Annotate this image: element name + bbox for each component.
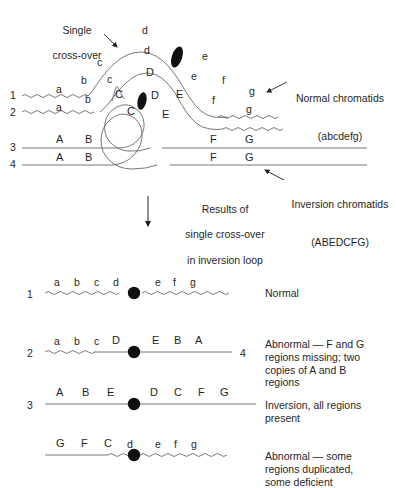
strand-number-2: 2 (10, 106, 16, 119)
result-1-label-f: f (173, 276, 176, 289)
region-label-2-g: g (246, 103, 252, 116)
region-label-3-E: E (176, 88, 183, 101)
region-label-4-F: F (210, 151, 217, 164)
result-1-right-wavy (142, 292, 229, 295)
region-label-1-b: b (81, 74, 87, 87)
region-label-4-B: B (85, 151, 92, 164)
result-1-centromere (128, 287, 140, 299)
region-label-4-C: C (127, 105, 135, 118)
result-strand-4 (45, 449, 227, 461)
result-4-label-d: d (127, 438, 133, 451)
result-3-label-G: G (220, 386, 229, 399)
strand-number-1: 1 (10, 89, 16, 102)
region-label-3-G: G (245, 133, 254, 146)
region-label-3-F: F (210, 133, 217, 146)
region-label-3-A: A (56, 133, 63, 146)
results-caption-line1: Results of (160, 203, 290, 216)
region-label-1-g: g (249, 85, 255, 98)
region-label-3-C: C (115, 88, 123, 101)
region-label-4-D: D (151, 89, 159, 102)
region-label-1-f: f (222, 74, 225, 87)
result-3-centromere (128, 398, 140, 410)
result-2-centromere (128, 346, 140, 358)
region-label-1-d: d (142, 24, 148, 37)
result-4-label-C: C (104, 437, 112, 450)
region-label-4-A: A (56, 151, 63, 164)
single-crossover-line2: cross-over (37, 49, 117, 62)
result-1-label-d: d (113, 276, 119, 289)
result-2-number-right: 4 (240, 347, 246, 360)
result-4-label-G: G (56, 437, 65, 450)
result-3-label-E: E (107, 386, 114, 399)
result-strand-1 (45, 287, 229, 299)
result-2-label-E: E (152, 334, 159, 347)
strand-number-3: 3 (10, 141, 16, 154)
result-2-label-A: A (195, 334, 202, 347)
result-3-label-C: C (174, 386, 182, 399)
inversion-chromatids-line2: (ABEDCFG) (286, 236, 394, 249)
result-4-label-e: e (155, 438, 161, 451)
inversion-chromatids-label: Inversion chromatids (ABEDCFG) (286, 172, 394, 274)
normal-chromatids-leader (267, 82, 287, 92)
result-1-label-a: a (54, 276, 60, 289)
result-2-number: 2 (27, 347, 33, 360)
result-3-label-B: B (82, 386, 89, 399)
region-label-4-G: G (245, 151, 254, 164)
normal-chromatids-line2: (abcdefg) (286, 130, 394, 143)
centromere-lower (136, 91, 148, 110)
result-1-number: 1 (27, 288, 33, 301)
single-crossover-label: Single cross-over (37, 11, 117, 75)
result-1-description: Normal (265, 287, 393, 300)
result-3-label-F: F (198, 386, 205, 399)
region-label-3-D: D (146, 66, 154, 79)
result-2-label-c: c (94, 335, 99, 348)
region-label-4-E: E (162, 108, 169, 121)
region-label-1-e: e (202, 50, 208, 63)
result-3-label-D: D (150, 386, 158, 399)
result-2-label-D: D (112, 334, 120, 347)
region-label-1-c: c (97, 56, 102, 69)
result-1-label-e: e (155, 276, 161, 289)
single-crossover-line1: Single (37, 24, 117, 37)
region-label-2-b: b (85, 93, 91, 106)
centromere-upper (169, 45, 186, 69)
result-2-label-b: b (74, 335, 80, 348)
result-2-label-a: a (54, 335, 60, 348)
result-2-left-wavy (45, 351, 95, 354)
region-label-2-c: c (107, 73, 112, 86)
normal-chromatids-line1: Normal chromatids (286, 92, 394, 105)
inversion-chromatids-line1: Inversion chromatids (286, 198, 394, 211)
result-4-description: Abnormal — some regions duplicated, some… (265, 450, 395, 488)
result-3-description: Inversion, all regions present (265, 399, 395, 425)
region-label-2-d: d (144, 44, 150, 57)
normal-chromatids-label: Normal chromatids (abcdefg) (286, 66, 394, 168)
result-1-label-b: b (74, 276, 80, 289)
result-1-label-c: c (94, 276, 99, 289)
region-label-3-B: B (85, 133, 92, 146)
region-label-2-f: f (212, 94, 215, 107)
results-caption-line3: in inversion loop (160, 254, 290, 267)
result-3-number: 3 (27, 399, 33, 412)
strand-number-4: 4 (10, 158, 16, 171)
chromatid-2-right-wavy (223, 128, 283, 131)
result-3-label-A: A (56, 386, 63, 399)
result-2-description: Abnormal — F and G regions missing; two … (265, 338, 395, 389)
result-1-label-g: g (190, 276, 196, 289)
region-label-1-a: a (56, 83, 62, 96)
result-4-label-f: f (174, 438, 177, 451)
results-caption-line2: single cross-over (160, 228, 290, 241)
region-label-2-a: a (56, 101, 62, 114)
results-caption: Results of single cross-over in inversio… (160, 190, 290, 280)
result-1-left-wavy (45, 292, 119, 295)
result-4-label-g: g (191, 438, 197, 451)
region-label-2-e: e (191, 70, 197, 83)
result-4-right-wavy (140, 454, 227, 457)
result-strand-3 (45, 398, 256, 410)
chromatid-1-left-wavy (22, 95, 88, 98)
result-4-label-F: F (81, 437, 88, 450)
inversion-chromatids-leader (265, 170, 284, 180)
result-2-label-B: B (174, 334, 181, 347)
